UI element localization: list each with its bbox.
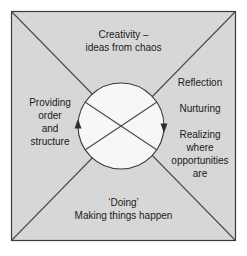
quadrant-diagram: Creativity – ideas from chaos Providing … (0, 0, 247, 256)
diagram-canvas (0, 0, 247, 256)
